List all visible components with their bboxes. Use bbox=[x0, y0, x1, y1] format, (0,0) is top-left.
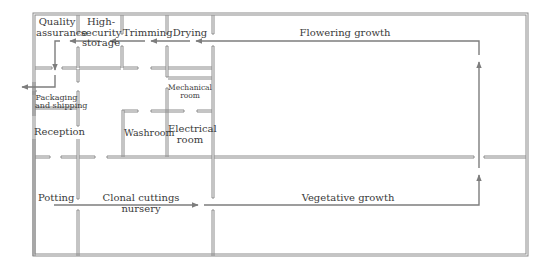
label-line: High- bbox=[80, 17, 122, 28]
label-reception: Reception bbox=[34, 127, 78, 138]
label-line: room bbox=[168, 92, 212, 100]
label-washroom: Washroom bbox=[124, 128, 167, 138]
label-packaging-shipping: Packaging and shipping bbox=[35, 94, 78, 111]
label-line: Electrical bbox=[168, 124, 212, 135]
nursery-walls bbox=[212, 157, 214, 256]
arrow-qa-to-packaging bbox=[55, 41, 60, 70]
label-line: and shipping bbox=[35, 102, 78, 110]
label-flowering-growth: Flowering growth bbox=[290, 28, 400, 39]
outer-wall bbox=[33, 13, 528, 256]
label-vegetative-growth: Vegetative growth bbox=[298, 193, 398, 204]
process-flow-arrows bbox=[22, 41, 479, 205]
label-line: Quality bbox=[36, 17, 78, 28]
label-mechanical-room: Mechanical room bbox=[168, 84, 212, 100]
arrow-packaging-exit bbox=[22, 75, 55, 87]
arrow-flowering-to-drying bbox=[196, 41, 479, 55]
label-drying: Drying bbox=[168, 28, 212, 39]
label-line: room bbox=[168, 135, 212, 146]
label-line: nursery bbox=[100, 204, 182, 215]
label-line: assurance bbox=[36, 28, 78, 39]
label-trimming: Trimming bbox=[123, 28, 167, 39]
label-high-security-storage: High- security storage bbox=[80, 17, 122, 49]
label-line: storage bbox=[80, 38, 122, 49]
label-quality-assurance: Quality assurance bbox=[36, 17, 78, 38]
label-line: Clonal cuttings bbox=[100, 193, 182, 204]
label-clonal-cuttings-nursery: Clonal cuttings nursery bbox=[100, 193, 182, 214]
label-potting: Potting bbox=[38, 193, 74, 204]
label-electrical-room: Electrical room bbox=[168, 124, 212, 145]
